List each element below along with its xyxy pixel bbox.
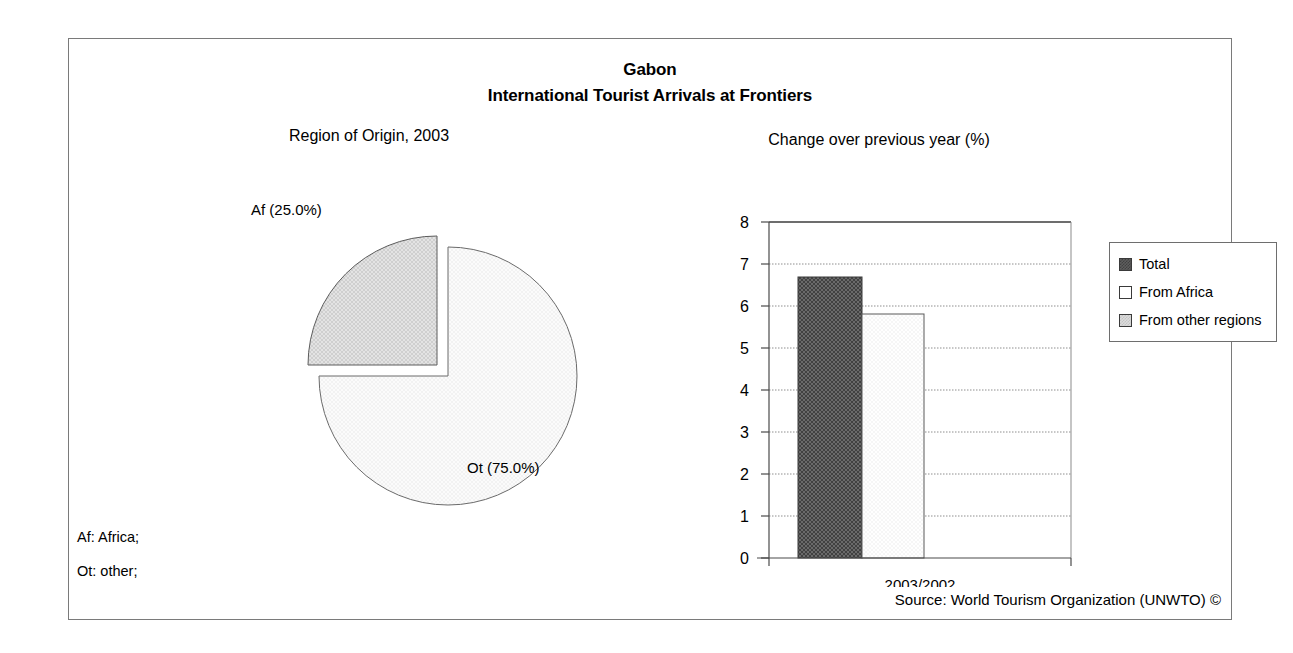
y-tick-label-6: 6 (740, 298, 749, 315)
footnote-af: Af: Africa; (77, 529, 139, 545)
bar-chart-legend: Total From Africa From other regions (1109, 242, 1277, 342)
y-tick-label-7: 7 (740, 256, 749, 273)
y-tick-label-8: 8 (740, 214, 749, 231)
pie-chart: Af (25.0%) Ot (75.0%) (189, 179, 659, 539)
pie-chart-svg (189, 179, 659, 539)
legend-item-from-other-regions[interactable]: From other regions (1119, 306, 1276, 334)
y-tick-label-0: 0 (740, 550, 749, 567)
legend-swatch-from-other-regions-icon (1119, 314, 1132, 327)
figure-title-subject: International Tourist Arrivals at Fronti… (69, 86, 1231, 106)
figure-title-country: Gabon (69, 60, 1231, 80)
bar-chart-svg: 0 1 2 3 4 5 6 7 8 2003/2002 (629, 167, 1189, 587)
bar-from-africa (862, 314, 924, 558)
legend-item-total[interactable]: Total (1119, 250, 1276, 278)
legend-swatch-from-africa-icon (1119, 286, 1132, 299)
x-axis-ticks (769, 558, 1071, 566)
y-axis-ticks (761, 222, 769, 558)
footnote-ot: Ot: other; (77, 563, 137, 579)
y-tick-label-1: 1 (740, 508, 749, 525)
legend-label-from-other-regions: From other regions (1139, 313, 1262, 328)
pie-chart-title: Region of Origin, 2003 (159, 127, 579, 145)
bar-total (798, 277, 862, 558)
figure-frame: Gabon International Tourist Arrivals at … (68, 38, 1232, 620)
legend-label-total: Total (1139, 257, 1170, 272)
legend-item-from-africa[interactable]: From Africa (1119, 278, 1276, 306)
x-category-label: 2003/2002 (885, 576, 956, 587)
source-note: Source: World Tourism Organization (UNWT… (895, 591, 1221, 608)
pie-label-ot: Ot (75.0%) (467, 459, 540, 476)
bar-chart-title: Change over previous year (%) (654, 131, 1104, 149)
bar-chart: 0 1 2 3 4 5 6 7 8 2003/2002 (629, 167, 1189, 587)
y-tick-label-4: 4 (740, 382, 749, 399)
legend-swatch-total-icon (1119, 258, 1132, 271)
y-tick-label-5: 5 (740, 340, 749, 357)
pie-slice-af (308, 236, 437, 365)
y-tick-label-2: 2 (740, 466, 749, 483)
legend-label-from-africa: From Africa (1139, 285, 1213, 300)
y-tick-label-3: 3 (740, 424, 749, 441)
pie-label-af: Af (25.0%) (251, 201, 322, 218)
